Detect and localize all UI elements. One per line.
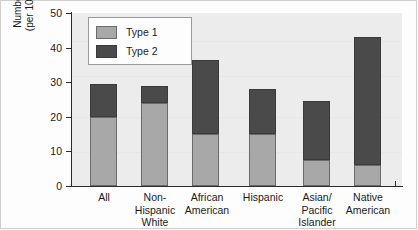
y-tick-0 — [66, 186, 72, 187]
legend-swatch-type1-icon — [96, 26, 117, 39]
x-label-api-line3: Islander — [288, 216, 346, 229]
x-label-na-line2: American — [339, 204, 397, 217]
bar-hispanic[interactable] — [249, 89, 276, 186]
bar-non-hispanic-white-type1 — [141, 103, 168, 186]
x-label-aa-line2: American — [178, 204, 236, 217]
x-label-api-line2: Pacific — [288, 204, 346, 217]
x-axis-end-tick — [395, 181, 396, 187]
bar-all[interactable] — [90, 84, 117, 186]
bar-native-american-type2 — [354, 37, 381, 165]
y-tick-label-20: 20 — [22, 112, 62, 123]
legend-label-type2: Type 2 — [126, 46, 158, 57]
y-tick-30 — [66, 82, 72, 83]
x-label-non-hispanic-white: Non- Hispanic White — [126, 191, 184, 229]
legend: Type 1 Type 2 — [88, 17, 192, 65]
y-axis-line — [71, 12, 72, 187]
y-tick-label-0: 0 — [22, 181, 62, 192]
legend-item-type1[interactable]: Type 1 — [96, 23, 191, 42]
bar-all-type2 — [90, 84, 117, 117]
y-axis-title-line2: (per 100,000/year) — [24, 0, 36, 50]
y-axis-title-line1: Number of cases — [12, 0, 24, 50]
y-tick-label-10: 10 — [22, 146, 62, 157]
x-label-api-line1: Asian/ — [288, 191, 346, 204]
x-label-all-line1: All — [78, 191, 130, 204]
bar-african-american[interactable] — [192, 60, 219, 186]
y-tick-50 — [66, 13, 72, 14]
x-label-na-line1: Native — [339, 191, 397, 204]
x-label-all: All — [78, 191, 130, 204]
y-axis-title: Number of cases (per 100,000/year) — [12, 0, 35, 50]
bar-native-american-type1 — [354, 165, 381, 186]
bar-asian-pacific-islander-type1 — [303, 160, 330, 186]
bar-non-hispanic-white-type2 — [141, 86, 168, 103]
bar-non-hispanic-white[interactable] — [141, 86, 168, 186]
y-tick-40 — [66, 48, 72, 49]
bar-asian-pacific-islander-type2 — [303, 101, 330, 160]
y-tick-10 — [66, 151, 72, 152]
bar-asian-pacific-islander[interactable] — [303, 101, 330, 186]
legend-item-type2[interactable]: Type 2 — [96, 42, 191, 61]
x-label-hispanic: Hispanic — [234, 191, 292, 204]
chart-figure: 50 40 30 20 10 0 Number of cases (per 10… — [0, 0, 418, 230]
x-label-native-american: Native American — [339, 191, 397, 216]
x-label-nhw-line1: Non- — [126, 191, 184, 204]
x-label-nhw-line2: Hispanic — [126, 204, 184, 217]
y-tick-label-30: 30 — [22, 77, 62, 88]
legend-swatch-type2-icon — [96, 45, 117, 58]
bar-african-american-type2 — [192, 60, 219, 134]
x-label-hisp-line1: Hispanic — [234, 191, 292, 204]
y-tick-20 — [66, 117, 72, 118]
bar-all-type1 — [90, 117, 117, 186]
x-label-african-american: African American — [178, 191, 236, 216]
bar-native-american[interactable] — [354, 37, 381, 186]
x-label-nhw-line3: White — [126, 216, 184, 229]
x-label-asian-pacific-islander: Asian/ Pacific Islander — [288, 191, 346, 229]
x-axis-line — [71, 186, 403, 187]
bar-hispanic-type2 — [249, 89, 276, 134]
legend-label-type1: Type 1 — [126, 27, 158, 38]
bar-hispanic-type1 — [249, 134, 276, 186]
x-label-aa-line1: African — [178, 191, 236, 204]
bar-african-american-type1 — [192, 134, 219, 186]
